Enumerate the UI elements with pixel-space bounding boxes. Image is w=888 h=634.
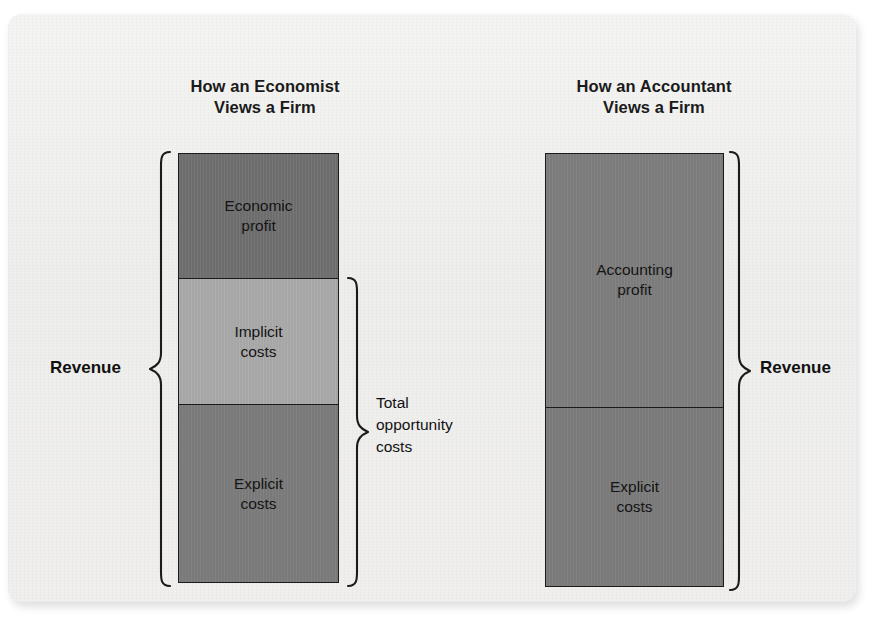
segment-explicit-costs-economist: Explicit costs xyxy=(179,404,338,582)
panel-title-economist-line2: Views a Firm xyxy=(120,97,410,118)
stacked-bar-economist: Economic profit Implicit costs Explicit … xyxy=(178,153,339,583)
brace-revenue-left xyxy=(146,150,174,588)
segment-explicit-costs-accountant: Explicit costs xyxy=(546,407,723,586)
total-opportunity-costs-label: Total opportunity costs xyxy=(376,392,486,458)
segment-accounting-profit-label: Accounting profit xyxy=(596,260,673,300)
segment-economic-profit-label: Economic profit xyxy=(224,196,292,236)
segment-economic-profit: Economic profit xyxy=(179,154,338,278)
panel-title-accountant-line2: Views a Firm xyxy=(504,97,804,118)
brace-total-opportunity-costs xyxy=(344,276,372,588)
revenue-label-left: Revenue xyxy=(50,358,121,378)
panel-title-accountant-line1: How an Accountant xyxy=(504,76,804,97)
segment-accounting-profit: Accounting profit xyxy=(546,154,723,407)
segment-explicit-costs-economist-label: Explicit costs xyxy=(234,474,283,514)
segment-implicit-costs-label: Implicit costs xyxy=(234,322,282,362)
revenue-label-right: Revenue xyxy=(760,358,831,378)
figure-card: How an Economist Views a Firm Economic p… xyxy=(8,14,856,602)
stacked-bar-accountant: Accounting profit Explicit costs xyxy=(545,153,724,587)
panel-title-economist-line1: How an Economist xyxy=(120,76,410,97)
segment-explicit-costs-accountant-label: Explicit costs xyxy=(610,477,659,517)
panel-title-accountant: How an Accountant Views a Firm xyxy=(504,76,804,118)
panel-title-economist: How an Economist Views a Firm xyxy=(120,76,410,118)
segment-implicit-costs: Implicit costs xyxy=(179,278,338,404)
brace-revenue-right xyxy=(726,150,754,592)
